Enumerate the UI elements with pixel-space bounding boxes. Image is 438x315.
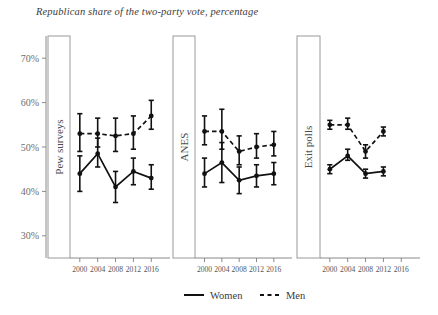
panel-label: Pew surveys — [53, 119, 65, 174]
data-point — [95, 131, 100, 136]
data-point — [77, 171, 82, 176]
data-point — [271, 171, 276, 176]
y-tick-label: 40% — [21, 186, 39, 197]
data-point — [77, 131, 82, 136]
x-tick-label: 2012 — [376, 265, 391, 274]
data-point — [95, 151, 100, 156]
data-point — [327, 167, 332, 172]
y-tick-label: 30% — [21, 230, 39, 241]
chart-container: Republican share of the two-party vote, … — [0, 0, 438, 315]
data-point — [113, 134, 118, 139]
series-line-men — [330, 125, 384, 152]
data-point — [149, 114, 154, 119]
panel-label: Exit polls — [302, 126, 314, 168]
data-point — [381, 169, 386, 174]
x-tick-label: 2012 — [249, 265, 264, 274]
x-tick-label: 2016 — [144, 265, 159, 274]
x-tick-label: 2012 — [126, 265, 141, 274]
x-tick-label: 2008 — [232, 265, 247, 274]
x-tick-label: 2008 — [108, 265, 123, 274]
data-point — [202, 129, 207, 134]
chart-canvas: 30%40%50%60%70%Pew surveys20002004200820… — [0, 0, 438, 315]
data-point — [131, 131, 136, 136]
y-tick-label: 50% — [21, 142, 39, 153]
y-tick-label: 70% — [21, 53, 39, 64]
y-tick-label: 60% — [21, 97, 39, 108]
x-tick-label: 2008 — [358, 265, 373, 274]
data-point — [345, 153, 350, 158]
x-tick-label: 2004 — [214, 265, 229, 274]
data-point — [363, 171, 368, 176]
data-point — [345, 122, 350, 127]
legend-label-men: Men — [286, 290, 306, 301]
data-point — [271, 142, 276, 147]
legend-label-women: Women — [210, 290, 243, 301]
x-tick-label: 2000 — [322, 265, 337, 274]
series-line-women — [330, 156, 384, 174]
data-point — [202, 171, 207, 176]
x-tick-label: 2004 — [90, 265, 105, 274]
x-tick-label: 2016 — [394, 265, 409, 274]
panel-label: ANES — [178, 133, 190, 162]
data-point — [149, 176, 154, 181]
data-point — [254, 173, 259, 178]
data-point — [254, 145, 259, 150]
data-point — [237, 149, 242, 154]
data-point — [363, 149, 368, 154]
x-tick-label: 2016 — [266, 265, 281, 274]
data-point — [219, 129, 224, 134]
data-point — [113, 185, 118, 190]
data-point — [237, 178, 242, 183]
x-tick-label: 2000 — [72, 265, 87, 274]
data-point — [381, 129, 386, 134]
data-point — [219, 160, 224, 165]
x-tick-label: 2000 — [197, 265, 212, 274]
data-point — [131, 169, 136, 174]
x-tick-label: 2004 — [340, 265, 355, 274]
data-point — [327, 122, 332, 127]
